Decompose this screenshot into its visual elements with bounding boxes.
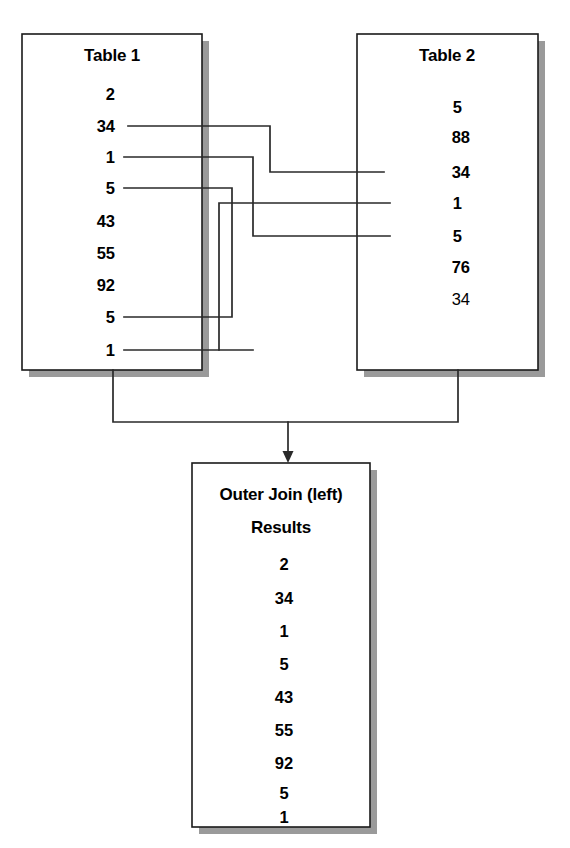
table2-title: Table 2 [419, 46, 475, 65]
result-cell-6: 92 [275, 754, 293, 772]
result-cell-8: 1 [279, 808, 288, 826]
table1-title: Table 1 [84, 46, 140, 65]
result-cell-1: 34 [275, 589, 294, 607]
result-cell-2: 1 [279, 622, 288, 640]
result-title-line2: Results [251, 518, 311, 537]
diagram-root: Table 1 2 34 1 5 43 55 92 5 1 Table 2 5 … [0, 0, 570, 848]
table1-cell-1: 34 [97, 117, 116, 135]
table2-cell-2: 34 [452, 163, 471, 181]
table2-box [357, 34, 538, 370]
table1-cell-5: 55 [97, 244, 115, 262]
table1-cell-3: 5 [106, 179, 115, 197]
result-cell-0: 2 [279, 555, 288, 573]
table1-cell-8: 1 [106, 341, 115, 359]
table2-cell-3: 1 [453, 194, 462, 212]
result-cell-4: 43 [275, 688, 293, 706]
table2-cell-1: 88 [452, 128, 470, 146]
result-cell-3: 5 [279, 655, 288, 673]
join-diagram-svg: Table 1 2 34 1 5 43 55 92 5 1 Table 2 5 … [0, 0, 570, 848]
result-cell-5: 55 [275, 721, 293, 739]
result-title-line1: Outer Join (left) [219, 485, 342, 504]
table2-cell-0: 5 [453, 98, 462, 116]
table1-cell-6: 92 [97, 276, 115, 294]
table2-cell-6: 34 [452, 290, 470, 308]
merge-connector [113, 370, 458, 422]
table2-cell-4: 5 [453, 227, 462, 245]
result-arrow-head [283, 451, 294, 463]
table1-cell-2: 1 [106, 148, 115, 166]
table1-cell-4: 43 [97, 212, 115, 230]
result-cell-7: 5 [279, 784, 288, 802]
table1-cell-7: 5 [106, 308, 115, 326]
table2-cell-5: 76 [452, 258, 470, 276]
table1-cell-0: 2 [106, 85, 115, 103]
